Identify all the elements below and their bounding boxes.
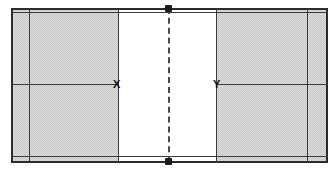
right-service-zone xyxy=(216,8,327,162)
net-post-bottom xyxy=(165,158,172,165)
net-post-top xyxy=(165,5,172,12)
left-singles-sideline xyxy=(29,8,30,163)
court-diagram: X Y xyxy=(0,0,336,172)
centre-line-left-segment xyxy=(11,84,119,85)
net-dashed-line xyxy=(168,8,170,162)
marker-x: X xyxy=(113,79,120,90)
left-service-zone xyxy=(11,8,118,162)
court-left-boundary xyxy=(11,8,13,163)
court-right-boundary xyxy=(326,8,328,163)
right-singles-sideline xyxy=(307,8,308,163)
centre-line-right-segment xyxy=(216,84,328,85)
marker-y: Y xyxy=(213,79,220,90)
